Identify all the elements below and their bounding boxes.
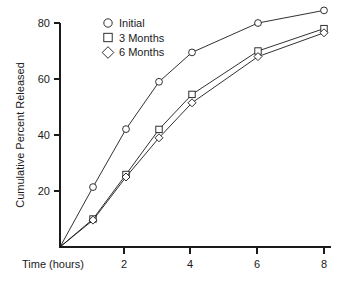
y-axis-title: Cumulative Percent Released: [14, 62, 26, 208]
series-6-months: [60, 29, 328, 247]
x-tick-label-2: 2: [121, 258, 127, 270]
axis-lines: [60, 23, 331, 247]
legend-label-6-months: 6 Months: [119, 46, 165, 58]
y-tick-label-20: 20: [38, 185, 50, 197]
legend-label-initial: Initial: [119, 17, 145, 29]
x-axis-tick-labels: 2 4 6 8: [121, 258, 327, 270]
circle-marker-icon: [189, 49, 196, 56]
plot-area: 80 60 40 20 2 4 6 8 Time (hours) Cumulat…: [0, 0, 343, 283]
x-tick-label-6: 6: [254, 258, 260, 270]
series-line-2: [60, 33, 324, 247]
legend-item-6-months[interactable]: 6 Months: [102, 46, 165, 58]
y-axis-ticks: [54, 23, 60, 191]
legend-item-initial[interactable]: Initial: [104, 17, 145, 29]
x-tick-label-4: 4: [187, 258, 193, 270]
x-axis-ticks: [124, 247, 324, 254]
x-axis-title: Time (hours): [22, 258, 84, 270]
y-tick-label-40: 40: [38, 129, 50, 141]
cumulative-release-chart: 80 60 40 20 2 4 6 8 Time (hours) Cumulat…: [0, 0, 343, 283]
series-layer: [60, 7, 328, 247]
circle-marker-icon: [123, 126, 130, 133]
series-3-months: [60, 25, 327, 247]
y-axis-tick-labels: 80 60 40 20: [38, 17, 50, 197]
square-marker-icon: [156, 126, 162, 132]
legend-label-3-months: 3 Months: [119, 32, 165, 44]
circle-marker-icon: [104, 19, 112, 27]
circle-marker-icon: [321, 7, 328, 14]
y-tick-label-60: 60: [38, 73, 50, 85]
circle-marker-icon: [156, 78, 163, 85]
square-marker-icon: [104, 33, 112, 41]
circle-marker-icon: [90, 184, 97, 191]
legend: Initial 3 Months 6 Months: [102, 17, 165, 58]
x-tick-label-8: 8: [321, 258, 327, 270]
y-tick-label-80: 80: [38, 17, 50, 29]
circle-marker-icon: [255, 20, 262, 27]
series-line-1: [60, 29, 324, 247]
square-marker-icon: [189, 91, 195, 97]
legend-item-3-months[interactable]: 3 Months: [104, 32, 165, 44]
diamond-marker-icon: [102, 47, 114, 59]
